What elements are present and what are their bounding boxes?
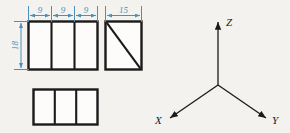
y-axis-label: Y xyxy=(272,114,280,126)
x-axis-line xyxy=(170,85,218,118)
dimension-label-9b: 9 xyxy=(61,5,66,15)
z-axis-label: Z xyxy=(226,16,233,28)
technical-drawing-canvas: 9 9 9 18 15 Z X Y xyxy=(0,0,290,133)
dimension-label-9c: 9 xyxy=(84,5,89,15)
coordinate-axes: Z X Y xyxy=(154,16,280,126)
front-view xyxy=(29,22,98,70)
dimension-label-15: 15 xyxy=(119,5,129,15)
height-dimension-group: 18 xyxy=(10,22,29,70)
depth-dimension-group: 15 xyxy=(106,5,142,23)
drawing-svg: 9 9 9 18 15 Z X Y xyxy=(0,0,290,133)
dimension-label-18: 18 xyxy=(10,41,20,51)
width-dimension-group: 9 9 9 xyxy=(29,5,98,23)
top-view-outline xyxy=(34,90,98,125)
front-view-outline xyxy=(29,22,98,70)
y-axis-line xyxy=(218,85,266,118)
dimension-label-9a: 9 xyxy=(38,5,43,15)
side-view xyxy=(106,22,142,70)
x-axis-label: X xyxy=(154,114,163,126)
top-view xyxy=(34,90,98,125)
